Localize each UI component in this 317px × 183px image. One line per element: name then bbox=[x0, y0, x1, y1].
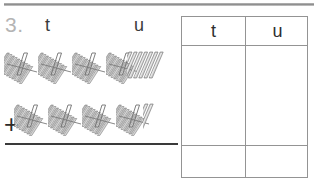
column-label-tens: t bbox=[45, 15, 50, 35]
table-header-label-tens: t bbox=[211, 21, 216, 41]
answer-rule bbox=[5, 143, 178, 145]
table-answer-cell-tens[interactable] bbox=[182, 146, 246, 177]
addend-row-second bbox=[0, 99, 180, 145]
table-answer-cell-units[interactable] bbox=[246, 146, 309, 177]
table-answer-row bbox=[182, 146, 307, 177]
table-header-cell-tens: t bbox=[182, 17, 246, 45]
column-label-units: u bbox=[134, 15, 144, 35]
loose-units-group-second bbox=[143, 99, 169, 145]
table-header-row: t u bbox=[182, 17, 307, 46]
table-work-cell-tens[interactable] bbox=[182, 46, 246, 145]
table-header-label-units: u bbox=[272, 21, 282, 41]
addend-row-first bbox=[0, 47, 180, 93]
table-work-cell-units[interactable] bbox=[246, 46, 309, 145]
loose-units-group-first bbox=[127, 47, 179, 93]
table-header-cell-units: u bbox=[246, 17, 309, 45]
problem-number: 3. bbox=[5, 14, 24, 35]
top-divider-rule bbox=[4, 3, 314, 6]
table-work-row bbox=[182, 46, 307, 146]
place-value-table: t u bbox=[181, 16, 308, 178]
